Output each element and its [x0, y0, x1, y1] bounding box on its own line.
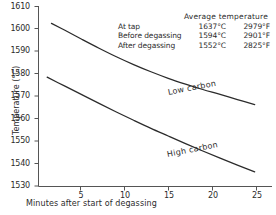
table-row: After degassing 1552°C 2825°F [118, 41, 270, 51]
x-axis-ticks [81, 187, 257, 191]
y-axis-title: Temperature (°C) [12, 51, 21, 151]
row-label-before-degassing: Before degassing [118, 31, 186, 41]
row-fahrenheit-before-degassing: 2901°F [226, 31, 270, 41]
y-tick-label-1530: 1530 [2, 182, 30, 190]
average-temperature-header: Average temperature [118, 12, 270, 22]
row-celsius-after-degassing: 1552°C [186, 41, 226, 51]
row-fahrenheit-at-tap: 2979°F [226, 22, 270, 32]
row-label-at-tap: At tap [118, 22, 186, 32]
temperature-degassing-chart: 1610 1600 1590 1580 1570 1560 1550 1540 … [0, 0, 276, 215]
average-temperature-rows: At tap 1637°C 2979°F Before degassing 15… [118, 22, 270, 51]
row-celsius-at-tap: 1637°C [186, 22, 226, 32]
average-temperature-table: Average temperature At tap 1637°C 2979°F… [118, 12, 270, 50]
y-tick-label-1610: 1610 [2, 3, 30, 11]
y-axis-ticks [35, 7, 39, 187]
row-label-after-degassing: After degassing [118, 41, 186, 51]
row-celsius-before-degassing: 1594°C [186, 31, 226, 41]
x-axis-title: Minutes after start of degassing [26, 199, 157, 208]
table-row: Before degassing 1594°C 2901°F [118, 31, 270, 41]
y-tick-label-1540: 1540 [2, 160, 30, 168]
curve-high-carbon [47, 77, 255, 172]
x-tick-label-15: 15 [158, 192, 180, 200]
row-fahrenheit-after-degassing: 2825°F [226, 41, 270, 51]
y-tick-label-1600: 1600 [2, 25, 30, 33]
x-tick-label-20: 20 [202, 192, 224, 200]
table-row: At tap 1637°C 2979°F [118, 22, 270, 32]
x-tick-label-25: 25 [246, 192, 268, 200]
